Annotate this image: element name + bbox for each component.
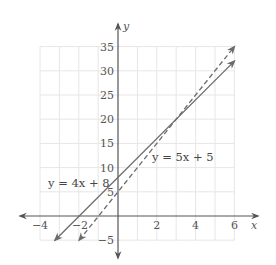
equation-label-5x-plus-5: y = 5x + 5	[151, 150, 214, 164]
x-tick-label: 6	[231, 219, 238, 232]
y-axis-label: y	[122, 20, 130, 33]
y-tick-label: 30	[100, 65, 114, 78]
y-tick-label: 10	[100, 162, 114, 175]
x-tick-label: −4	[32, 219, 48, 232]
y-tick-label: 25	[100, 89, 114, 102]
x-axis-label: x	[251, 219, 258, 232]
line-chart: −4 −2 2 4 6 35 30 25 20 15 10 5 −5 x y y…	[0, 0, 276, 265]
y-tick-label: 15	[100, 137, 114, 150]
y-tick-label: 35	[100, 41, 114, 54]
x-tick-label: 4	[192, 219, 199, 232]
grid	[40, 47, 234, 241]
y-tick-label: 20	[100, 113, 114, 126]
y-tick-label: −5	[98, 234, 114, 247]
equation-label-4x-plus-8: y = 4x + 8	[47, 176, 110, 190]
x-tick-label: −2	[72, 219, 88, 232]
x-tick-label: 2	[153, 219, 160, 232]
